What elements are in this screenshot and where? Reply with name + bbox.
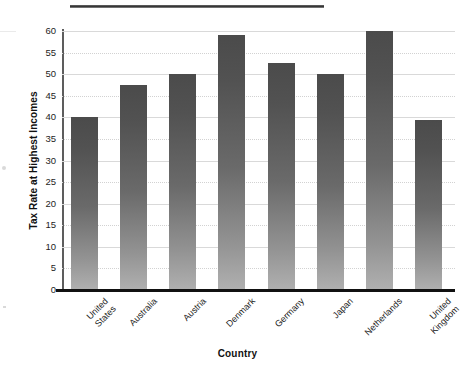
y-axis-tick-label: 35 bbox=[30, 134, 56, 144]
y-axis-tick-label: 50 bbox=[30, 69, 56, 79]
bar[interactable] bbox=[317, 74, 344, 290]
gridline bbox=[62, 74, 455, 75]
y-axis-tick-label: 20 bbox=[30, 199, 56, 209]
y-axis-tick-label: 10 bbox=[30, 242, 56, 252]
y-axis-tick-label: 40 bbox=[30, 112, 56, 122]
bar[interactable] bbox=[415, 120, 442, 291]
bar[interactable] bbox=[169, 74, 196, 290]
y-axis-tick-label: 25 bbox=[30, 177, 56, 187]
y-axis-tick-label: 45 bbox=[30, 91, 56, 101]
bar[interactable] bbox=[268, 63, 295, 290]
y-axis-tick-label: 0 bbox=[30, 285, 56, 295]
bar[interactable] bbox=[120, 85, 147, 290]
bar[interactable] bbox=[366, 31, 393, 290]
y-axis-tick-label: 5 bbox=[30, 263, 56, 273]
y-axis-tick-label: 30 bbox=[30, 156, 56, 166]
y-axis-tick-label: 15 bbox=[30, 220, 56, 230]
bar-chart: Tax Rate at Highest Incomes 051015202530… bbox=[0, 0, 475, 375]
y-axis-tick-label: 60 bbox=[30, 26, 56, 36]
bar[interactable] bbox=[218, 35, 245, 290]
x-axis-title: Country bbox=[0, 348, 475, 359]
x-axis-line bbox=[56, 289, 455, 292]
plot-area bbox=[62, 31, 455, 290]
gridline bbox=[62, 53, 455, 54]
y-axis-tick-label: 55 bbox=[30, 48, 56, 58]
bar[interactable] bbox=[71, 117, 98, 290]
gridline bbox=[62, 31, 455, 32]
x-axis-tick-label: United States bbox=[39, 296, 117, 374]
